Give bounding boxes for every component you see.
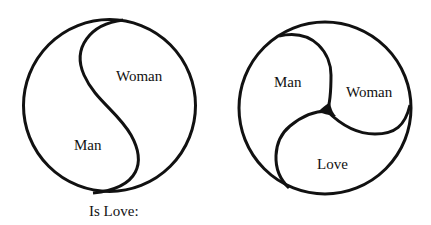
- right-label-woman: Woman: [346, 85, 392, 100]
- left-yin-yang: [24, 20, 196, 194]
- diagram-canvas: [0, 0, 431, 225]
- triskele-arm-love: [276, 111, 327, 188]
- left-label-woman: Woman: [116, 69, 162, 84]
- triskele-arm-woman: [327, 105, 410, 134]
- left-label-man: Man: [74, 138, 102, 153]
- left-outer-circle: [24, 20, 196, 192]
- triskele-arm-man: [279, 35, 331, 111]
- right-label-man: Man: [274, 75, 302, 90]
- right-label-love: Love: [317, 157, 348, 172]
- caption-is-love: Is Love:: [89, 204, 139, 219]
- left-s-curve: [80, 20, 138, 193]
- triskele-center-fill: [318, 103, 336, 116]
